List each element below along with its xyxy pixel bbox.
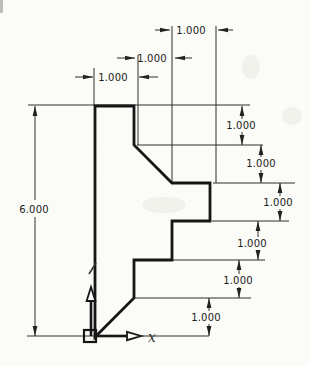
- x-axis-arrow-icon: [127, 332, 141, 340]
- dim-label-right-3: 1.000: [263, 197, 293, 208]
- arrow-down-icon: [259, 173, 264, 183]
- arrow-up-icon: [207, 298, 212, 308]
- dim-label-top-3: 1.000: [176, 25, 206, 36]
- arrow-left-icon: [218, 28, 228, 33]
- part-profile-outline: [95, 106, 210, 337]
- scan-smudge: [282, 107, 302, 125]
- dim-label-right-4: 1.000: [237, 238, 267, 249]
- arrow-up-icon: [278, 183, 283, 193]
- arrow-down-icon: [33, 326, 38, 336]
- technical-drawing-page: 6.000 1.000 1.000 1.000 1.000 1.000 1.00…: [0, 0, 309, 366]
- arrow-right-icon: [160, 28, 170, 33]
- scan-artifacts: [0, 0, 302, 213]
- arrow-left-icon: [139, 75, 149, 80]
- dim-label-right-5: 1.000: [223, 275, 253, 286]
- arrow-down-icon: [237, 288, 242, 298]
- dim-label-right-2: 1.000: [246, 158, 276, 169]
- arrow-left-icon: [175, 56, 185, 61]
- arrow-down-icon: [278, 211, 283, 221]
- arrow-up-icon: [33, 106, 38, 116]
- dim-label-overall-height: 6.000: [19, 204, 49, 215]
- technical-drawing: 6.000 1.000 1.000 1.000 1.000 1.000 1.00…: [0, 0, 309, 366]
- scan-edge-mark: [0, 0, 3, 13]
- arrow-down-icon: [240, 135, 245, 145]
- dim-label-top-1: 1.000: [98, 72, 128, 83]
- dim-label-right-6: 1.000: [191, 312, 221, 323]
- arrow-right-icon: [125, 56, 135, 61]
- x-axis-label: x: [148, 329, 156, 345]
- arrow-right-icon: [83, 75, 93, 80]
- scan-smudge: [242, 55, 260, 79]
- arrow-up-icon: [240, 106, 245, 116]
- arrow-up-icon: [259, 145, 264, 155]
- scan-smudge: [142, 197, 186, 213]
- arrow-up-icon: [237, 260, 242, 270]
- arrow-down-icon: [256, 250, 261, 260]
- dim-label-top-2: 1.000: [137, 53, 167, 64]
- arrow-down-icon: [207, 326, 212, 336]
- dim-label-right-1: 1.000: [226, 120, 256, 131]
- arrow-up-icon: [256, 221, 261, 231]
